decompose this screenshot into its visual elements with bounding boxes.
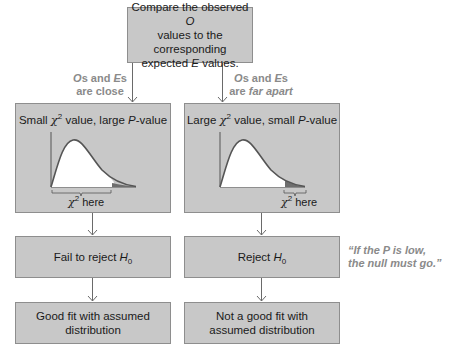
subscript: 0 <box>128 257 132 266</box>
compare-values-box: Compare the observed O values to the cor… <box>127 7 253 63</box>
chi-square-here-label: χ2 here <box>281 195 317 210</box>
top-text-part: Compare the observed <box>132 1 249 13</box>
decision-text: Reject H0 <box>238 250 287 264</box>
label-part: are <box>229 85 249 97</box>
top-text-part: values. <box>199 57 239 69</box>
label-part: O <box>234 72 243 84</box>
decision-part: Reject <box>238 251 274 263</box>
chi-square-here-label: χ2 here <box>68 195 104 210</box>
label-part: E <box>274 72 281 84</box>
top-text-part: values to the corresponding <box>154 29 227 55</box>
chi-square-curve-large <box>185 104 341 214</box>
decision-text: Fail to reject H0 <box>54 250 133 264</box>
chi-symbol: χ <box>68 196 75 209</box>
here-text: here <box>79 196 104 208</box>
result-text: Not a good fit with assumed distribution <box>209 309 314 337</box>
chi-symbol: χ <box>281 196 288 209</box>
quote-line: “If the P is low, <box>348 244 426 256</box>
small-chi-square-box: Small χ2 value, large P-value χ2 here <box>15 103 171 213</box>
fail-to-reject-box: Fail to reject H0 <box>15 236 171 278</box>
label-part: O <box>73 72 82 84</box>
top-text-part: expected <box>141 57 191 69</box>
label-part: are close <box>76 85 124 97</box>
reject-box: Reject H0 <box>184 236 340 278</box>
compare-values-text: Compare the observed O values to the cor… <box>128 0 252 70</box>
expected-var: E <box>191 57 199 69</box>
quote-line: the null must go.” <box>348 257 442 269</box>
result-text: Good fit with assumed distribution <box>36 309 150 337</box>
hypothesis-var: H <box>274 251 282 263</box>
left-branch-label: Os and Es are close <box>70 72 130 98</box>
result-line: distribution <box>65 324 121 336</box>
label-part: s and <box>82 72 114 84</box>
subscript: 0 <box>282 257 286 266</box>
result-line: Good fit with assumed <box>36 310 150 322</box>
label-part: s and <box>243 72 275 84</box>
here-text: here <box>292 196 317 208</box>
observed-var: O <box>186 15 195 27</box>
decision-part: Fail to reject <box>54 251 120 263</box>
label-part: E <box>113 72 120 84</box>
not-good-fit-box: Not a good fit with assumed distribution <box>184 302 340 344</box>
mnemonic-quote: “If the P is low, the null must go.” <box>348 244 442 270</box>
label-part: s <box>121 72 127 84</box>
result-line: assumed distribution <box>209 324 314 336</box>
label-part: s <box>282 72 288 84</box>
good-fit-box: Good fit with assumed distribution <box>15 302 171 344</box>
large-chi-square-box: Large χ2 value, small P-value χ2 here <box>184 103 340 213</box>
hypothesis-var: H <box>120 251 128 263</box>
right-branch-label: Os and Es are far apart <box>229 72 293 98</box>
result-line: Not a good fit with <box>216 310 308 322</box>
label-part: far apart <box>249 85 293 97</box>
